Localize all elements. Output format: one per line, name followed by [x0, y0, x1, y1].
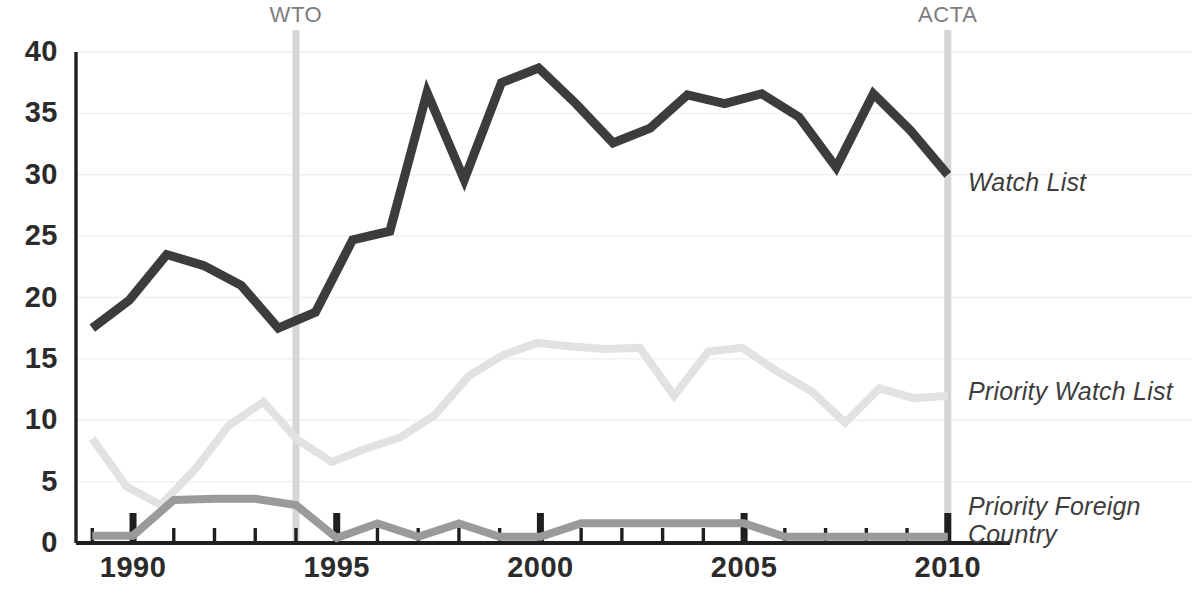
series-label-line: Priority Watch List	[968, 377, 1173, 405]
series-label-line: Watch List	[968, 168, 1086, 196]
series-line-watch-list	[92, 68, 947, 328]
series-label-priority-foreign-country: Priority Foreign Country	[968, 492, 1141, 548]
x-axis-tick-label: 1995	[303, 553, 370, 582]
y-axis-tick-label: 15	[0, 344, 58, 373]
y-axis-tick-label: 5	[0, 467, 58, 496]
y-axis-tick-label: 40	[0, 37, 58, 66]
x-axis-tick-label: 1990	[100, 553, 167, 582]
y-axis-tick-label: 25	[0, 221, 58, 250]
event-marker-lines	[296, 30, 948, 543]
series-line-priority-watch-list	[92, 343, 947, 505]
y-axis-tick-label: 0	[0, 528, 58, 557]
x-axis-tick-label: 2005	[711, 553, 778, 582]
series-label-line: Country	[968, 520, 1141, 548]
series-label-line: Priority Foreign	[968, 492, 1141, 520]
series-line-priority-foreign-country	[92, 499, 947, 538]
event-annotation-label: ACTA	[918, 4, 977, 26]
series-label-priority-watch-list: Priority Watch List	[968, 377, 1173, 405]
y-axis-tick-label: 30	[0, 160, 58, 189]
series-label-watch-list: Watch List	[968, 168, 1086, 196]
x-axis-tick-label: 2010	[915, 553, 982, 582]
y-axis-tick-label: 10	[0, 405, 58, 434]
event-annotation-label: WTO	[270, 4, 323, 26]
chart-container: 0510152025303540 19901995200020052010 WT…	[0, 0, 1192, 591]
y-axis-tick-label: 35	[0, 98, 58, 127]
x-axis-tick-label: 2000	[507, 553, 574, 582]
data-series	[92, 68, 947, 538]
y-axis-tick-label: 20	[0, 283, 58, 312]
